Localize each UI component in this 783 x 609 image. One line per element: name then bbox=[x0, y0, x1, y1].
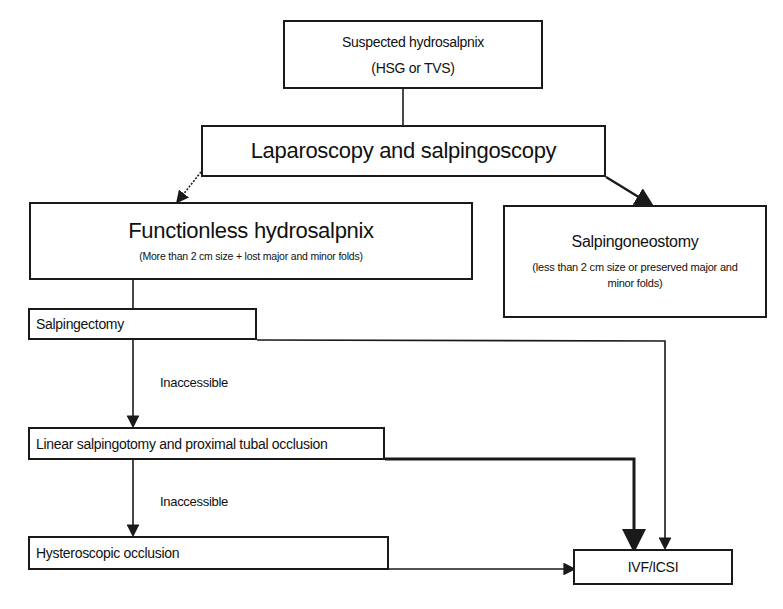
node-ivf-label: IVF/ICSI bbox=[628, 559, 679, 575]
node-laparoscopy-label: Laparoscopy and salpingoscopy bbox=[251, 138, 557, 164]
node-suspected-line2: (HSG or TVS) bbox=[371, 60, 454, 76]
node-linear-salpingotomy: Linear salpingotomy and proximal tubal o… bbox=[28, 427, 385, 460]
node-salpingoneostomy-title: Salpingoneostomy bbox=[572, 233, 699, 251]
edge-label-inaccessible-1: Inaccessible bbox=[160, 375, 228, 390]
node-salpingoneostomy: Salpingoneostomy (less than 2 cm size or… bbox=[503, 205, 767, 318]
node-functionless-subtitle: (More than 2 cm size + lost major and mi… bbox=[139, 248, 363, 264]
node-ivf-icsi: IVF/ICSI bbox=[573, 549, 733, 585]
edge-linear-ivf bbox=[385, 459, 634, 547]
node-hysteroscopic-label: Hysteroscopic occlusion bbox=[36, 545, 179, 561]
edge-label-inaccessible-2: Inaccessible bbox=[160, 494, 228, 509]
edge-laparoscopy-salpingoneostomy bbox=[606, 177, 650, 204]
node-salpingectomy-label: Salpingectomy bbox=[36, 316, 124, 332]
node-salpingoneostomy-subtitle: (less than 2 cm size or preserved major … bbox=[525, 259, 745, 291]
node-suspected-hydrosalpinx: Suspected hydrosalpnix (HSG or TVS) bbox=[283, 20, 543, 89]
node-suspected-line1: Suspected hydrosalpnix bbox=[342, 34, 484, 50]
node-linear-label: Linear salpingotomy and proximal tubal o… bbox=[36, 436, 327, 452]
node-laparoscopy: Laparoscopy and salpingoscopy bbox=[201, 125, 606, 177]
node-functionless-title: Functionless hydrosalpnix bbox=[128, 218, 374, 244]
node-hysteroscopic-occlusion: Hysteroscopic occlusion bbox=[28, 536, 389, 570]
node-functionless-hydrosalpinx: Functionless hydrosalpnix (More than 2 c… bbox=[29, 202, 473, 280]
edge-laparoscopy-functionless bbox=[178, 172, 201, 201]
node-salpingectomy: Salpingectomy bbox=[28, 308, 257, 340]
